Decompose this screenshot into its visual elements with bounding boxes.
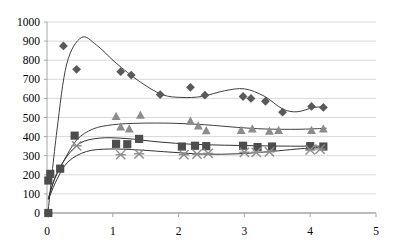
trend-line-series-3 [48, 138, 326, 199]
y-tick-label: 800 [23, 54, 41, 66]
data-point [307, 102, 316, 111]
y-tick-label: 700 [23, 73, 41, 85]
data-point [125, 124, 134, 132]
y-tick-label: 500 [23, 112, 41, 124]
data-point [178, 142, 186, 150]
data-point [265, 126, 274, 134]
data-point [135, 135, 143, 143]
x-axis-tick-labels: 012345 [44, 225, 379, 237]
data-point [116, 150, 126, 159]
gridlines [47, 22, 376, 213]
data-point [116, 67, 125, 76]
data-point [237, 126, 246, 134]
data-point [44, 209, 52, 217]
y-tick-label: 900 [23, 35, 41, 47]
x-tick-label: 2 [176, 225, 182, 237]
y-axis-tick-labels: 01002003004005006007008009001000 [17, 16, 40, 219]
x-tick-label: 1 [110, 225, 116, 237]
x-tick-label: 0 [44, 225, 50, 237]
y-tick-label: 300 [23, 150, 41, 162]
trend-line-series-1 [48, 37, 324, 209]
x-tick-label: 4 [307, 225, 313, 237]
axes [44, 22, 376, 217]
chart-container: 01002003004005006007008009001000 012345 [0, 0, 395, 251]
data-point [134, 149, 144, 158]
data-point [247, 94, 256, 103]
data-point [71, 132, 79, 140]
data-point [112, 140, 120, 148]
data-point [112, 112, 121, 120]
y-tick-label: 100 [23, 188, 41, 200]
data-point [123, 140, 131, 148]
data-point [56, 165, 64, 173]
data-point [278, 108, 287, 117]
data-point [72, 141, 82, 150]
markers-series-2 [112, 110, 328, 134]
data-point [194, 121, 203, 129]
y-tick-label: 1000 [17, 16, 40, 28]
data-point [191, 142, 199, 150]
y-tick-label: 600 [23, 92, 41, 104]
data-point [239, 92, 248, 101]
data-point [186, 83, 195, 92]
data-point [59, 41, 68, 50]
data-point [319, 103, 328, 112]
data-point [46, 170, 54, 178]
y-tick-label: 200 [23, 169, 41, 181]
data-point [136, 110, 145, 118]
data-point [202, 126, 211, 134]
data-point [156, 90, 165, 99]
data-point [179, 150, 189, 159]
data-point [307, 126, 316, 134]
y-tick-label: 400 [23, 131, 41, 143]
x-tick-label: 3 [242, 225, 248, 237]
data-point [192, 150, 202, 159]
scatter-chart: 01002003004005006007008009001000 012345 [0, 0, 395, 251]
y-tick-label: 0 [34, 207, 40, 219]
x-tick-label: 5 [373, 225, 379, 237]
data-point [274, 126, 283, 134]
data-point [72, 65, 81, 74]
trend-line-series-2 [48, 123, 326, 199]
